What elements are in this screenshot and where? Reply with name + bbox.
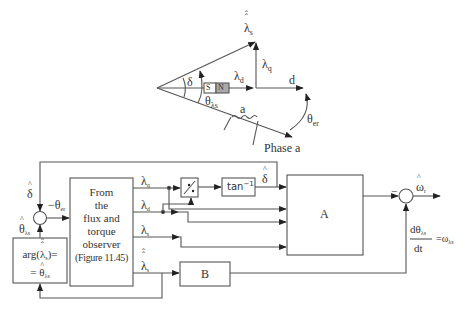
divider-dot-top [188, 184, 190, 186]
observer-line-1: From [70, 186, 133, 199]
lambda-s-signal-label: λs [141, 224, 149, 236]
omega-lambda-s-equation: =ωλs [436, 234, 453, 244]
winding-lead-right [253, 121, 258, 145]
neg-theta-er-label: −θer [48, 199, 65, 211]
block-b-label: B [201, 268, 209, 280]
d-axis-label: d [289, 74, 295, 86]
phase-a-axis-label: Phase a [264, 142, 300, 154]
summing-junction-right [399, 189, 413, 203]
delta-hat-output-label: δ [262, 173, 268, 185]
divider-dot-bottom [192, 190, 194, 192]
phase-winding-label: a [240, 103, 245, 115]
observer-line-5: observer [70, 238, 133, 251]
theta-er-angle-label: θer [307, 113, 319, 125]
theta-lambda-s-signal-label: θλs [19, 223, 30, 235]
lambda-d-vector-label: λd [234, 70, 244, 82]
arg-block-line-2: = θλs [13, 266, 67, 281]
diagram-canvas [0, 0, 471, 313]
lambda-d-to-a-line [178, 212, 286, 222]
theta-er-arc [290, 94, 307, 130]
observer-block-text: From the flux and torque observer (Figur… [70, 186, 133, 264]
lambda-s-to-a-line [179, 237, 286, 247]
block-b-output-line [230, 204, 406, 273]
arg-block-text: arg(λs)= = θλs [13, 248, 67, 281]
omega-r-label: ωr [416, 181, 426, 193]
lambda-q-vector-label: λq [262, 58, 272, 70]
magnet-n-label: N [218, 84, 224, 92]
observer-line-4: torque [70, 225, 133, 238]
block-a-label: A [320, 208, 329, 220]
observer-line-6: (Figure 11.45) [70, 251, 133, 264]
delta-angle-label: δ [187, 76, 193, 88]
lambda-s-vec-signal-label: λs [141, 260, 149, 272]
summing-junction-left [34, 212, 47, 225]
lambda-d-signal-label: λd [141, 199, 150, 211]
dtheta-numerator: dθλs [410, 224, 426, 235]
winding-lead-left [224, 117, 231, 130]
theta-lambda-s-angle-label: θλs [205, 95, 218, 107]
observer-line-2: the [70, 199, 133, 212]
dtheta-denominator: dt [414, 243, 423, 254]
arctan-block-label: tan−1 [227, 181, 254, 192]
delta-hat-feedback-label: δ [27, 188, 33, 200]
minus-sign-label: − [391, 186, 397, 197]
magnet-s-label: S [206, 84, 210, 92]
theta-lambda-s-arc [198, 71, 202, 103]
vector-diagram [157, 42, 307, 145]
observer-line-3: flux and [70, 212, 133, 225]
stator-flux-label: λs [244, 22, 253, 34]
lambda-d-to-divider-line [163, 198, 191, 212]
lambda-q-signal-label: λq [141, 175, 150, 187]
